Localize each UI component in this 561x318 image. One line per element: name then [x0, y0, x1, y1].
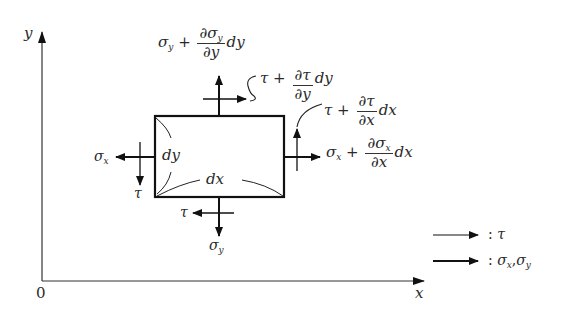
right-normal-stress-expression: σx + ∂σx ∂x dx — [326, 136, 413, 171]
left-normal-stress-label: σx — [94, 149, 109, 163]
left-face-arrows — [116, 142, 155, 185]
top-face-arrows — [203, 76, 256, 116]
fraction: ∂τ ∂x — [356, 94, 376, 129]
diagram-lines — [0, 0, 561, 318]
top-shear-stress-expression: τ + ∂τ ∂y dy — [260, 68, 333, 103]
left-shear-stress-label: τ — [134, 186, 142, 200]
right-face-arrows — [284, 104, 322, 171]
origin-label: 0 — [36, 286, 46, 301]
x-axis-label: x — [415, 286, 423, 301]
top-normal-stress-expression: σy + ∂σy ∂y dy — [158, 26, 245, 61]
fraction: ∂σx ∂x — [365, 136, 392, 171]
bottom-normal-stress-label: σy — [209, 238, 224, 252]
stress-element-diagram: y x 0 dy dx σy + ∂σy ∂y dy τ + ∂τ ∂y dy … — [0, 0, 561, 318]
fraction: ∂σy ∂y — [197, 26, 224, 61]
width-label-dx: dx — [206, 172, 224, 187]
legend-arrows — [433, 235, 478, 261]
bottom-face-arrows — [193, 197, 234, 236]
legend-item-shear: : τ — [488, 227, 505, 241]
legend-item-normal: : σx,σy — [488, 253, 531, 267]
y-axis-label: y — [24, 26, 32, 41]
right-shear-stress-expression: τ + ∂τ ∂x dx — [324, 94, 397, 129]
height-label-dy: dy — [162, 148, 180, 163]
bottom-shear-stress-label: τ — [180, 205, 188, 219]
fraction: ∂τ ∂y — [292, 68, 312, 103]
